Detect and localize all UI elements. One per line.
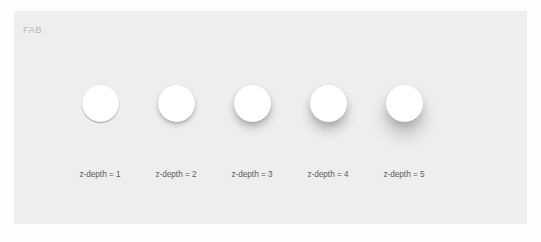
fab-circle-z5[interactable] — [386, 85, 423, 122]
fab-item-z2: z-depth = 2 — [138, 11, 214, 224]
fab-circle-z3[interactable] — [234, 85, 271, 122]
fab-item-z5: z-depth = 5 — [366, 11, 442, 224]
fab-label-z5: z-depth = 5 — [366, 171, 442, 179]
fab-item-z3: z-depth = 3 — [214, 11, 290, 224]
fab-label-z1: z-depth = 1 — [62, 171, 138, 179]
fab-item-z4: z-depth = 4 — [290, 11, 366, 224]
fab-circle-z1[interactable] — [82, 85, 119, 122]
fab-label-z2: z-depth = 2 — [138, 171, 214, 179]
fab-circle-z4[interactable] — [310, 85, 347, 122]
fab-row: z-depth = 1 z-depth = 2 z-depth = 3 z-de… — [14, 11, 527, 224]
fab-label-z3: z-depth = 3 — [214, 171, 290, 179]
fab-circle-z2[interactable] — [158, 85, 195, 122]
fab-demo-panel: FAB z-depth = 1 z-depth = 2 z-depth = 3 … — [14, 11, 527, 224]
fab-label-z4: z-depth = 4 — [290, 171, 366, 179]
fab-item-z1: z-depth = 1 — [62, 11, 138, 224]
